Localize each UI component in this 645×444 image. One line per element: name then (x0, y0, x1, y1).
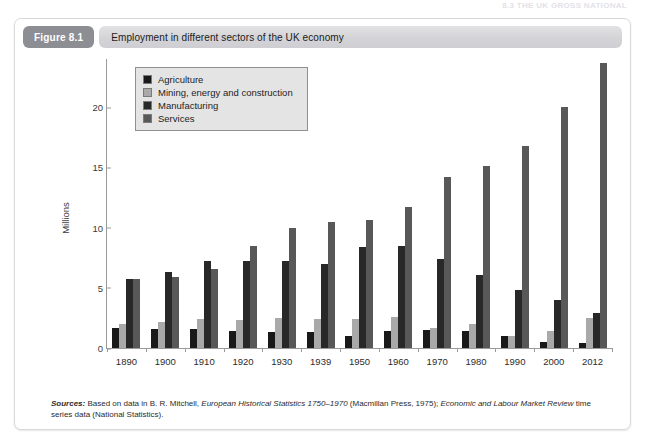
x-axis-line (106, 348, 612, 349)
bar-1930-manufacturing (282, 261, 289, 348)
bar-2012-agriculture (579, 343, 586, 348)
x-tick-mark-1920 (224, 348, 225, 352)
legend-label: Services (158, 113, 194, 124)
x-tick-label-1950: 1950 (349, 356, 370, 367)
x-tick-mark-1980 (457, 348, 458, 352)
bar-1990-agriculture (501, 336, 508, 348)
bar-1900-mining (158, 322, 165, 348)
bar-1980-agriculture (462, 331, 469, 348)
bar-1920-manufacturing (243, 261, 250, 348)
y-tick-15: 15 (23, 162, 111, 173)
x-tick-mark-end (612, 348, 613, 352)
bar-1980-mining (469, 324, 476, 348)
x-tick-mark-2012 (573, 348, 574, 352)
y-tick-0: 0 (23, 343, 111, 354)
bar-1890-agriculture (112, 328, 119, 348)
bar-1950-agriculture (345, 336, 352, 348)
figure-title: Employment in different sectors of the U… (99, 26, 622, 48)
bar-1890-services (133, 279, 140, 348)
bar-1890-manufacturing (126, 279, 133, 348)
x-tick-label-1939: 1939 (310, 356, 331, 367)
bar-1980-manufacturing (476, 275, 483, 348)
x-tick-label-1960: 1960 (388, 356, 409, 367)
bar-1970-services (444, 177, 451, 348)
bar-1990-mining (508, 336, 515, 348)
bar-1920-services (250, 246, 257, 348)
bar-1900-manufacturing (165, 272, 172, 348)
x-tick-mark-1939 (301, 348, 302, 352)
bar-group-2012 (573, 59, 612, 348)
bar-1960-manufacturing (398, 246, 405, 348)
bar-1939-services (328, 222, 335, 348)
bar-2000-manufacturing (554, 300, 561, 348)
x-tick-label-1990: 1990 (504, 356, 525, 367)
bar-group-1960 (379, 59, 418, 348)
bar-1960-services (405, 207, 412, 348)
x-tick-label-1930: 1930 (271, 356, 292, 367)
x-tick-mark-1990 (495, 348, 496, 352)
chart-plot-area: Millions 05101520 1890190019101920193019… (23, 53, 622, 383)
y-tick-20: 20 (23, 102, 111, 113)
bar-1930-mining (275, 318, 282, 348)
figure-caption-bar: Figure 8.1 Employment in different secto… (23, 26, 622, 48)
bar-2012-manufacturing (593, 313, 600, 348)
bar-1939-agriculture (307, 332, 314, 348)
bar-1910-mining (197, 319, 204, 348)
figure-container: Figure 8.1 Employment in different secto… (14, 18, 631, 430)
bar-1920-mining (236, 320, 243, 348)
bar-group-1980 (457, 59, 496, 348)
x-tick-label-2012: 2012 (582, 356, 603, 367)
bar-1970-manufacturing (437, 259, 444, 348)
x-tick-label-2000: 2000 (543, 356, 564, 367)
legend-swatch-icon (143, 101, 152, 110)
x-tick-mark-1950 (340, 348, 341, 352)
x-tick-label-1920: 1920 (232, 356, 253, 367)
sources-text-a: Based on data in B. R. Mitchell, (85, 399, 201, 408)
bar-1939-mining (314, 319, 321, 348)
x-tick-label-1980: 1980 (465, 356, 486, 367)
bar-group-2000 (534, 59, 573, 348)
legend-swatch-icon (143, 114, 152, 123)
x-tick-mark-1910 (185, 348, 186, 352)
y-tick-5: 5 (23, 282, 111, 293)
bar-1980-services (483, 166, 490, 348)
bar-1970-mining (430, 328, 437, 348)
bar-group-1970 (418, 59, 457, 348)
running-head: 8.3 THE UK GROSS NATIONAL (502, 1, 627, 10)
bar-1900-services (172, 277, 179, 348)
bar-1950-manufacturing (359, 247, 366, 348)
sources-label: Sources: (51, 399, 85, 408)
sources-italic-3: Review (547, 399, 573, 408)
bar-1990-manufacturing (515, 290, 522, 348)
legend-label: Manufacturing (158, 100, 218, 111)
bar-1890-mining (119, 324, 126, 348)
sources-italic-2: Economic and Labour Market (441, 399, 546, 408)
x-tick-label-1970: 1970 (427, 356, 448, 367)
bar-group-1950 (340, 59, 379, 348)
bar-2012-services (600, 63, 607, 348)
bar-1960-mining (391, 317, 398, 348)
x-tick-mark-2000 (534, 348, 535, 352)
bar-1970-agriculture (423, 330, 430, 348)
x-tick-mark-1890 (107, 348, 108, 352)
figure-sources: Sources: Based on data in B. R. Mitchell… (51, 398, 612, 421)
legend-item-agriculture: Agriculture (143, 73, 293, 86)
x-tick-mark-1960 (379, 348, 380, 352)
bar-1910-services (211, 269, 218, 348)
sources-text-b: (Macmillan Press, 1975); (348, 399, 441, 408)
bar-1910-manufacturing (204, 261, 211, 348)
bar-1960-agriculture (384, 331, 391, 348)
bar-group-1990 (495, 59, 534, 348)
sources-italic-1: European Historical Statistics 1750–1970 (201, 399, 347, 408)
legend-swatch-icon (143, 75, 152, 84)
x-tick-label-1910: 1910 (194, 356, 215, 367)
figure-number-tag: Figure 8.1 (23, 26, 94, 48)
bar-2000-agriculture (540, 342, 547, 348)
legend-swatch-icon (143, 88, 152, 97)
bar-2000-services (561, 107, 568, 348)
bar-1930-services (289, 228, 296, 348)
x-tick-mark-1900 (146, 348, 147, 352)
legend-item-manufacturing: Manufacturing (143, 99, 293, 112)
bar-1900-agriculture (151, 329, 158, 348)
legend-item-mining: Mining, energy and construction (143, 86, 293, 99)
